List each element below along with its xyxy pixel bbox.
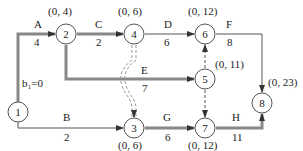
edge-c: C 2 bbox=[77, 18, 123, 48]
node-6-annotation: (0, 12) bbox=[188, 5, 218, 18]
edge-a-name: A bbox=[34, 18, 42, 30]
node-8-annotation: (0, 23) bbox=[268, 76, 298, 89]
node-3-annotation: (0, 6) bbox=[118, 139, 142, 151]
edge-c-duration: 2 bbox=[96, 36, 102, 48]
node-4-annotation: (0, 6) bbox=[118, 5, 142, 18]
edge-d: D 6 bbox=[145, 18, 194, 48]
edge-e-duration: 7 bbox=[142, 82, 148, 94]
edge-f-name: F bbox=[226, 18, 232, 30]
node-2-label: 2 bbox=[63, 28, 69, 40]
node-1-label: 1 bbox=[15, 106, 21, 118]
edge-h-duration: 11 bbox=[232, 131, 243, 143]
edge-b: B 2 bbox=[18, 111, 123, 143]
edge-g-duration: 6 bbox=[165, 131, 171, 143]
node-8-label: 8 bbox=[259, 97, 265, 109]
node-2: 2 (0, 4) bbox=[48, 5, 76, 44]
edge-b-duration: 2 bbox=[64, 131, 70, 143]
node-2-annotation: (0, 4) bbox=[48, 5, 72, 18]
edge-h-name: H bbox=[232, 111, 240, 123]
edge-d-name: D bbox=[164, 18, 172, 30]
node-7-annotation: (0, 12) bbox=[188, 139, 218, 151]
edge-h: H 11 bbox=[216, 111, 262, 143]
node-3: 3 (0, 6) bbox=[118, 118, 144, 151]
node-4: 4 (0, 6) bbox=[118, 5, 144, 44]
node-7: 7 (0, 12) bbox=[188, 118, 218, 151]
edge-f: F 8 bbox=[216, 18, 262, 92]
edge-d-duration: 6 bbox=[164, 36, 170, 48]
edge-b-name: B bbox=[63, 111, 70, 123]
edge-e: E 7 bbox=[66, 45, 194, 94]
node-6: 6 (0, 12) bbox=[188, 5, 218, 44]
node-3-label: 3 bbox=[131, 122, 137, 134]
edge-a: A 4 bbox=[18, 18, 55, 102]
network-diagram: A 4 B 2 C 2 D 6 E 7 F 8 G 6 H 11 bbox=[0, 0, 303, 151]
node-5-annotation: (0, 11) bbox=[215, 58, 244, 71]
edge-g-name: G bbox=[163, 111, 171, 123]
edge-a-duration: 4 bbox=[34, 36, 40, 48]
node-6-label: 6 bbox=[202, 28, 208, 40]
node-7-label: 7 bbox=[202, 122, 208, 134]
node-1-annotation: b₁=0 bbox=[22, 77, 44, 89]
dummy-edge-4-3 bbox=[121, 45, 136, 117]
node-8: 8 (0, 23) bbox=[252, 76, 298, 113]
edge-f-duration: 8 bbox=[227, 36, 233, 48]
node-5: 5 (0, 11) bbox=[195, 58, 244, 89]
edge-e-name: E bbox=[141, 64, 148, 76]
node-1: 1 b₁=0 bbox=[8, 77, 44, 122]
edge-c-name: C bbox=[95, 18, 102, 30]
node-4-label: 4 bbox=[131, 28, 137, 40]
edge-g: G 6 bbox=[145, 111, 194, 143]
node-5-label: 5 bbox=[202, 73, 208, 85]
